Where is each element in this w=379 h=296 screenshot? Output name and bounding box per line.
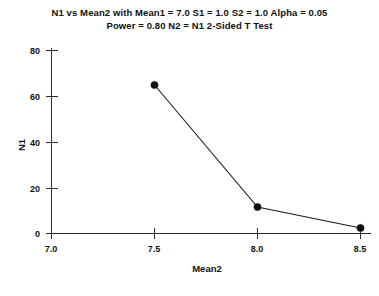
x-tick-label-8-0: 8.0 — [251, 244, 264, 254]
x-tick-label-7-5: 7.5 — [148, 244, 161, 254]
x-axis-title: Mean2 — [192, 263, 222, 274]
y-axis-title: N1 — [16, 138, 27, 151]
y-tick-label-20: 20 — [30, 184, 40, 194]
x-tick-label-8-5: 8.5 — [354, 244, 367, 254]
data-point-marker — [254, 203, 261, 210]
y-tick-label-80: 80 — [30, 46, 40, 56]
data-point-marker — [357, 224, 364, 231]
x-tick-label-7-0: 7.0 — [45, 244, 58, 254]
y-tick-label-60: 60 — [30, 92, 40, 102]
chart-container: N1 vs Mean2 with Mean1 = 7.0 S1 = 1.0 S2… — [0, 0, 379, 296]
y-tick-label-40: 40 — [30, 138, 40, 148]
y-tick-label-0: 0 — [35, 229, 40, 239]
plot-area: 80 60 40 20 0 7.0 7.5 8.0 8.5 N1 Mean2 — [0, 0, 379, 296]
data-point-marker — [151, 81, 158, 88]
